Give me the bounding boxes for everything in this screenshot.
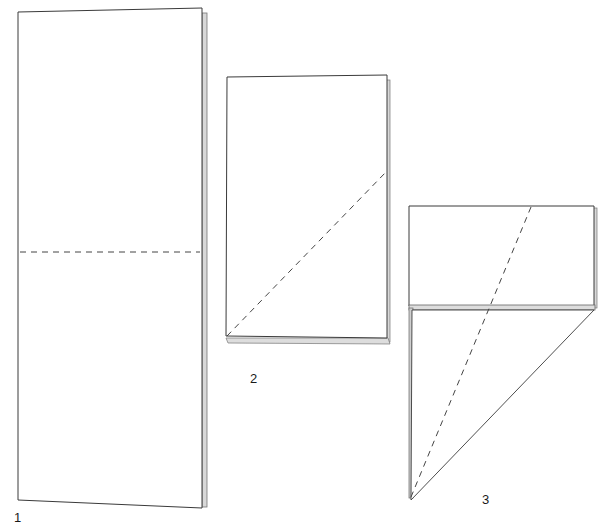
step-1-paper — [18, 8, 207, 508]
step-2-paper — [226, 75, 390, 344]
step-1-label: 1 — [14, 510, 21, 525]
step-3-label: 3 — [482, 492, 489, 507]
folding-diagram — [0, 0, 616, 526]
step-2-label: 2 — [250, 371, 257, 386]
step-3-paper — [409, 206, 597, 500]
